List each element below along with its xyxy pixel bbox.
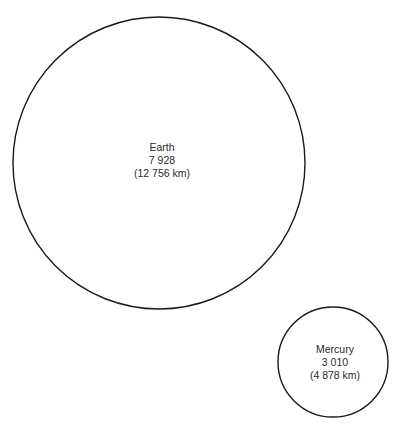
mercury-diameter-km: (4 878 km) xyxy=(310,369,360,382)
earth-name: Earth xyxy=(134,141,190,154)
mercury-name: Mercury xyxy=(310,343,360,356)
mercury-label: Mercury 3 010 (4 878 km) xyxy=(310,343,360,382)
earth-diameter-km: (12 756 km) xyxy=(134,167,190,180)
earth-label: Earth 7 928 (12 756 km) xyxy=(134,141,190,180)
mercury-diameter-miles: 3 010 xyxy=(310,356,360,369)
earth-diameter-miles: 7 928 xyxy=(134,154,190,167)
